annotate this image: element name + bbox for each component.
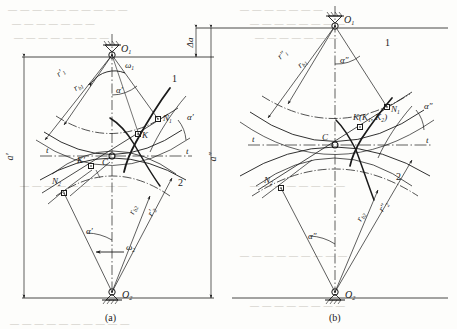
label-alpha-top-b: α″ [340,56,348,65]
label-alpha-right-a: α′ [187,113,194,122]
dimension-a-dprime: a″ [208,152,218,161]
diagram-canvas [0,0,457,329]
label-t-right-b: t [426,136,429,145]
label-alpha-top-a: α′ [116,86,123,95]
dimension-a-prime: a′ [5,153,15,160]
support-o2-b [325,289,345,304]
dimension-delta-a: Δa [186,38,195,48]
label-kprime-a: K′ [77,156,85,165]
panel-b-geometry [232,6,448,304]
label-k-a: K [142,131,148,140]
label-alpha-bottom-a: α′ [86,227,93,236]
label-omega1-a: ω1 [125,61,134,71]
label-t-left-b: t [252,135,255,144]
panel-caption-a: (a) [105,312,116,323]
panel-caption-b: (b) [329,312,341,323]
label-c-a: C [102,158,108,167]
label-alpha-bottom-b: α″ [308,232,316,241]
label-omega2-a: ω2 [126,243,135,253]
label-curve2-a: 2 [178,178,183,188]
label-curve1-b: 1 [385,38,390,48]
label-alpha-right-b: α″ [424,102,432,111]
label-t-left-a: t [46,146,49,155]
label-t-right-a: t [186,147,189,156]
label-o2-b: O2 [345,290,355,301]
point-kprime-a [89,164,94,169]
point-k-b [358,125,363,130]
label-n2-b: N2 [264,176,273,186]
label-o1-a: O1 [121,44,131,55]
figure-root: — — — — — — — — — — — — — — — — — — — — … [0,0,457,329]
label-n2-a: N2 [52,177,61,187]
label-c-b: C [322,133,328,142]
label-n1-a: N1 [163,114,172,124]
label-curve2-b: 2 [396,172,401,182]
label-curve1-a: 1 [172,74,177,84]
label-n1-b: N1 [391,105,400,115]
label-o2-a: O2 [122,290,132,301]
label-o1-b: O1 [344,15,354,26]
label-k-b: K(K1, K2) [353,113,387,123]
